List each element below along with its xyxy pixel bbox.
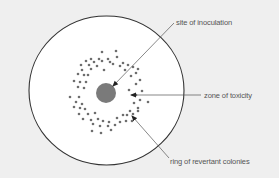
colony-dot	[103, 69, 106, 72]
colony-dot	[139, 79, 142, 82]
colony-dot	[73, 106, 76, 109]
colony-dot	[69, 96, 72, 99]
colony-dot	[87, 74, 90, 77]
colony-dot	[78, 113, 81, 116]
colony-dot	[84, 108, 87, 111]
colony-dot	[97, 118, 100, 121]
colony-dot	[79, 81, 82, 84]
colony-dot	[122, 114, 125, 117]
colony-dot	[90, 68, 93, 71]
colony-dot	[129, 110, 132, 113]
colony-dot	[126, 114, 129, 117]
colony-dot	[114, 124, 117, 127]
colony-dot	[109, 61, 112, 64]
colony-dot	[115, 50, 118, 53]
colony-dot	[108, 121, 111, 124]
colony-dot	[130, 75, 133, 78]
colony-dot	[87, 113, 90, 116]
colony-dot	[112, 63, 115, 66]
colony-dot	[116, 56, 119, 59]
colony-dot	[122, 62, 125, 65]
colony-dot	[85, 60, 88, 63]
colony-dot	[102, 120, 105, 123]
colony-dot	[100, 132, 103, 135]
colony-dot	[78, 96, 81, 99]
colony-dot	[77, 73, 80, 76]
colony-dot	[94, 112, 97, 115]
colony-dot	[81, 69, 84, 72]
colony-dot	[131, 120, 134, 123]
colony-dot	[101, 60, 104, 63]
colony-dot	[119, 65, 122, 68]
colony-dot	[125, 120, 128, 123]
label-site-of-inoculation: site of inoculation	[176, 18, 232, 27]
colony-dot	[137, 110, 140, 113]
colony-dot	[90, 119, 93, 122]
colony-dot	[127, 64, 130, 67]
label-zone-of-toxicity: zone of toxicity	[204, 91, 252, 100]
colony-dot	[79, 107, 82, 110]
colony-dot	[141, 90, 144, 93]
colony-dot	[132, 113, 135, 116]
colony-dot	[93, 61, 96, 64]
colony-dot	[81, 103, 84, 106]
colony-dot	[90, 58, 93, 61]
petri-dish-diagram: site of inoculation zone of toxicity rin…	[0, 0, 279, 178]
colony-dot	[75, 101, 78, 104]
label-ring-of-revertant-colonies: ring of revertant colonies	[170, 157, 250, 166]
colony-dot	[80, 64, 83, 67]
diagram-canvas: site of inoculation zone of toxicity rin…	[0, 0, 279, 178]
colony-dot	[133, 102, 136, 105]
colony-dot	[92, 123, 95, 126]
colony-dot	[135, 72, 138, 75]
colony-dot	[91, 130, 94, 133]
colony-dot	[82, 118, 85, 121]
colony-dot	[137, 107, 140, 110]
colony-dot	[98, 58, 101, 61]
colony-dot	[135, 83, 138, 86]
colony-dot	[99, 125, 102, 128]
colony-dot	[110, 129, 113, 132]
colony-dot	[124, 69, 127, 72]
colony-dot	[101, 51, 104, 54]
colony-dot	[85, 81, 88, 84]
colony-dot	[137, 68, 140, 71]
colony-dot	[128, 89, 131, 92]
colony-dot	[107, 125, 110, 128]
colony-dot	[73, 80, 76, 83]
colony-dot	[83, 74, 86, 77]
colony-dot	[96, 65, 99, 68]
colony-dot	[139, 99, 142, 102]
colony-dot	[88, 64, 91, 67]
colony-dot	[116, 117, 119, 120]
colony-dot	[119, 121, 122, 124]
colony-dot	[77, 86, 80, 89]
colony-dot	[83, 87, 86, 90]
colony-dot	[107, 58, 110, 61]
colony-dot	[147, 101, 150, 104]
